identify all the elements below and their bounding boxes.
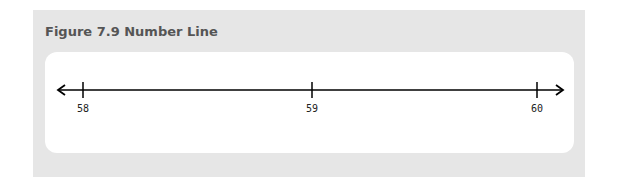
- tick-label-60: 60: [531, 103, 543, 114]
- figure-title: Figure 7.9 Number Line: [45, 24, 218, 39]
- number-line: 58 59 60: [45, 52, 574, 153]
- tick-label-58: 58: [77, 103, 89, 114]
- figure-panel: Figure 7.9 Number Line 58 59 60: [33, 10, 585, 177]
- number-line-card: 58 59 60: [45, 52, 574, 153]
- tick-label-59: 59: [306, 103, 318, 114]
